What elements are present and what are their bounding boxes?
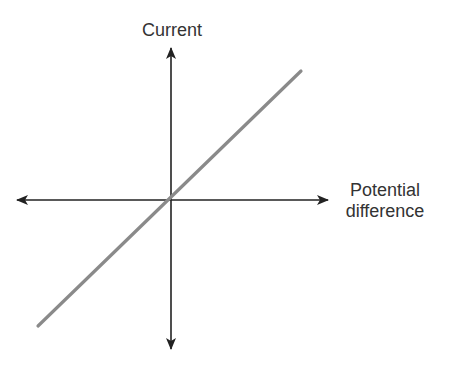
y-axis-label: Current <box>120 20 224 41</box>
iv-line <box>38 71 301 326</box>
x-axis-label-line2: difference <box>330 201 440 222</box>
x-axis-label: Potential difference <box>330 180 440 222</box>
x-axis-label-line1: Potential <box>330 180 440 201</box>
